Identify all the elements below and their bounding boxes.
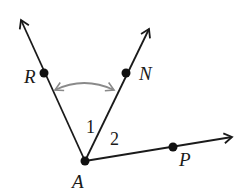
label-angle-2: 2 — [110, 129, 119, 149]
label-P: P — [178, 149, 191, 170]
label-A: A — [70, 171, 84, 192]
ray-AP — [85, 137, 232, 161]
ray-AR — [21, 20, 85, 161]
point-R — [40, 69, 49, 78]
label-R: R — [23, 66, 36, 87]
angle-arc-double-arrow — [55, 83, 114, 90]
point-N — [122, 69, 131, 78]
angle-diagram: R N 1 2 A P — [0, 0, 242, 195]
point-A — [81, 157, 90, 166]
label-N: N — [138, 63, 153, 84]
label-angle-1: 1 — [86, 117, 95, 137]
point-P — [169, 143, 178, 152]
